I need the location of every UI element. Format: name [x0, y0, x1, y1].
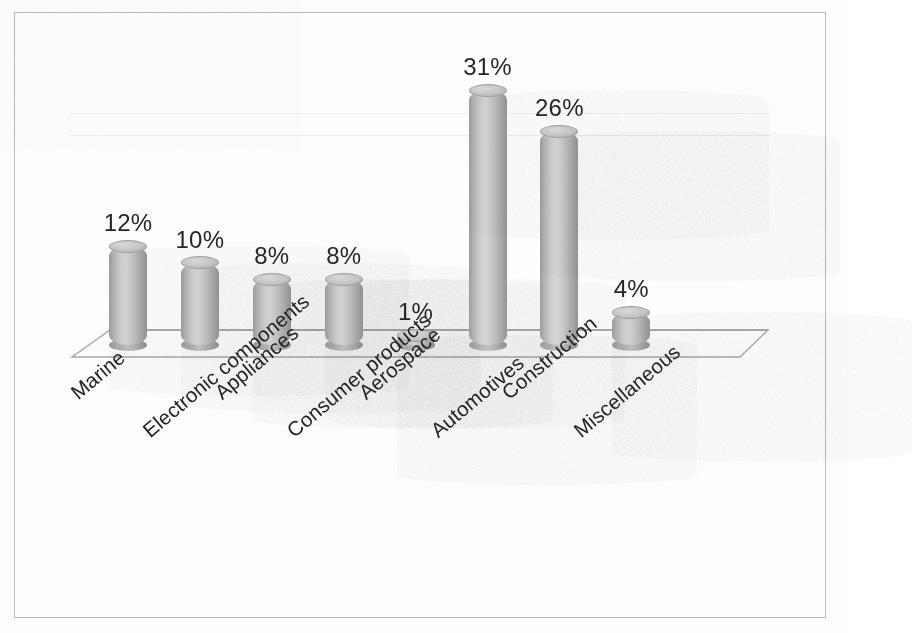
value-label-appliances: 8%	[231, 242, 313, 270]
bar-top-ellipse	[540, 125, 578, 138]
bar-body	[469, 90, 507, 345]
value-label-automotives: 31%	[447, 53, 529, 81]
value-label-miscellaneous: 4%	[590, 275, 672, 303]
bar-body	[109, 246, 147, 345]
value-label-electronic-components: 10%	[159, 226, 241, 254]
bar-body	[325, 279, 363, 345]
bar-miscellaneous[interactable]	[612, 312, 650, 345]
bar-electronic-components[interactable]	[181, 263, 219, 345]
value-label-construction: 26%	[518, 94, 600, 122]
bar-top-ellipse	[109, 240, 147, 253]
bar-body	[181, 263, 219, 345]
value-label-consumer-products: 8%	[303, 242, 385, 270]
bar-top-ellipse	[469, 84, 507, 97]
bar-marine[interactable]	[109, 246, 147, 345]
bar-body	[540, 131, 578, 345]
bar-top-ellipse	[253, 273, 291, 286]
bar-top-ellipse	[325, 273, 363, 286]
bar-construction[interactable]	[540, 131, 578, 345]
bar-automotives[interactable]	[469, 90, 507, 345]
bar-consumer-products[interactable]	[325, 279, 363, 345]
bar-top-ellipse	[612, 306, 650, 319]
value-label-marine: 12%	[87, 209, 169, 237]
